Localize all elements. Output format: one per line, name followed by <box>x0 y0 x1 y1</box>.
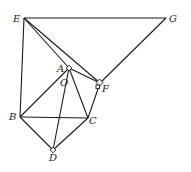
label-D: D <box>48 152 57 163</box>
right-angle-mark-F2 <box>96 85 100 89</box>
label-F: F <box>101 83 110 94</box>
segment-AB <box>20 68 69 117</box>
label-G: G <box>169 13 177 24</box>
label-E: E <box>12 13 21 24</box>
label-B: B <box>8 111 16 122</box>
segment-GF <box>100 18 166 83</box>
segment-BD <box>20 117 53 150</box>
label-C: C <box>89 115 97 126</box>
segment-BC <box>20 117 88 118</box>
segment-EB <box>20 18 24 117</box>
geometry-diagram: E G A O F B C D <box>0 0 191 172</box>
segment-EA <box>24 18 69 68</box>
point-labels: E G A O F B C D <box>8 13 177 163</box>
label-O: O <box>60 77 68 88</box>
segments <box>20 18 166 150</box>
label-A: A <box>56 63 64 74</box>
